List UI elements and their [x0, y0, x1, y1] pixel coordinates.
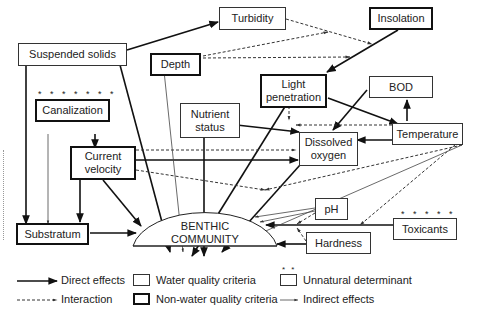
node-light-penetration[interactable]: Light penetration	[260, 74, 327, 108]
node-insolation[interactable]: Insolation	[369, 7, 433, 30]
node-temperature[interactable]: Temperature	[392, 123, 463, 145]
unnatural-determinant-swatch-icon	[280, 274, 297, 286]
node-nutrient-status[interactable]: Nutrient status	[180, 103, 240, 138]
node-ph[interactable]: pH	[315, 198, 348, 220]
node-toxicants[interactable]: Toxicants	[393, 218, 457, 240]
node-turbidity[interactable]: Turbidity	[219, 7, 286, 30]
legend-non-water-quality-criteria: Non-water quality criteria	[133, 293, 278, 305]
legend-unnatural-stars: * *	[282, 265, 296, 274]
margin-tick-marks	[3, 150, 6, 240]
node-current-velocity[interactable]: Current velocity	[70, 146, 136, 180]
node-depth[interactable]: Depth	[150, 53, 201, 76]
unnatural-stars-canalization: * * * * * * *	[38, 89, 117, 99]
water-quality-swatch-icon	[133, 274, 150, 286]
legend-water-quality-criteria: Water quality criteria	[133, 274, 256, 286]
node-benthic-community[interactable]: BENTHIC COMMUNITY	[170, 220, 240, 246]
node-dissolved-oxygen[interactable]: Dissolved oxygen	[299, 132, 358, 166]
node-substratum[interactable]: Substratum	[16, 223, 89, 245]
legend-direct-effects: Direct effects	[61, 274, 125, 286]
legend-interaction: Interaction	[61, 293, 112, 305]
non-water-quality-swatch-icon	[133, 293, 150, 305]
benthic-community-diagram: Suspended solids Turbidity Insolation De…	[0, 0, 482, 323]
node-hardness[interactable]: Hardness	[306, 232, 371, 254]
node-bod[interactable]: BOD	[369, 76, 433, 98]
legend-unnatural-determinant: Unnatural determinant	[280, 274, 412, 286]
legend-indirect-effects: Indirect effects	[303, 293, 374, 305]
node-suspended-solids[interactable]: Suspended solids	[18, 43, 127, 66]
node-canalization[interactable]: Canalization	[35, 99, 110, 122]
